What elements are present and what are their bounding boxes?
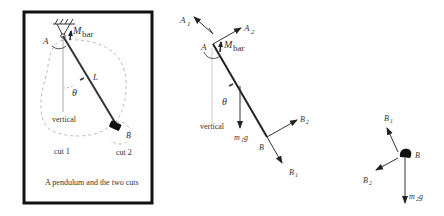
label-vertical: vertical <box>200 122 225 131</box>
moment-arrow <box>70 31 71 40</box>
label-B2: B <box>363 176 368 185</box>
label-B: B <box>415 151 420 160</box>
label-theta: θ <box>72 87 77 98</box>
force-B1-arrow <box>387 128 398 152</box>
svg-text:g: g <box>244 133 248 142</box>
label-B1: B <box>384 114 389 123</box>
panel-bar-free-body: A 1 A 2 A M bar θ vertical m 1 g B B 1 B… <box>179 15 309 178</box>
label-cut2: cut 2 <box>116 148 132 157</box>
label-A: A <box>42 36 49 46</box>
angle-tick <box>229 84 233 86</box>
label-vertical: vertical <box>52 115 77 124</box>
force-A1-arrow <box>194 17 213 34</box>
svg-text:2: 2 <box>369 180 372 186</box>
ceiling-support-icon <box>53 19 75 38</box>
svg-text:1: 1 <box>295 172 298 178</box>
panel-bob-free-body: B 1 B B 2 m 2 g <box>363 114 423 203</box>
force-B2-arrow <box>267 120 297 137</box>
label-m2g: m <box>409 192 415 201</box>
force-B2-arrow <box>376 158 398 170</box>
label-M: M <box>223 39 233 50</box>
label-L: L <box>92 72 98 82</box>
label-B: B <box>126 131 131 140</box>
svg-text:g: g <box>419 192 423 201</box>
label-B2: B <box>300 115 305 124</box>
pendulum-bar <box>63 36 116 124</box>
label-B: B <box>259 143 264 152</box>
label-cut1: cut 1 <box>54 147 70 156</box>
svg-text:bar: bar <box>233 43 245 53</box>
bob-icon <box>400 149 411 158</box>
moment-arrow <box>220 42 221 52</box>
panel-pendulum-cuts: A M bar L θ vertical B cut 1 cut 2 A pen… <box>24 12 152 203</box>
length-tick <box>80 78 84 80</box>
label-m1g: m <box>234 133 240 142</box>
label-M-sub: bar <box>82 29 94 39</box>
svg-text:1: 1 <box>390 118 393 124</box>
svg-text:2: 2 <box>306 119 309 125</box>
svg-text:2: 2 <box>251 28 255 36</box>
svg-text:1: 1 <box>187 20 191 28</box>
panel-caption: A pendulum and the two cuts <box>45 178 139 187</box>
label-A: A <box>200 42 207 52</box>
pendulum-bob <box>109 120 122 131</box>
force-B1-arrow <box>267 137 282 163</box>
label-A2: A <box>243 23 250 33</box>
angle-arc-A <box>52 46 66 49</box>
label-M: M <box>72 25 82 36</box>
label-B1: B <box>289 168 294 177</box>
label-theta: θ <box>222 96 227 107</box>
label-A1: A <box>179 15 186 25</box>
pendulum-free-body-diagram: A M bar L θ vertical B cut 1 cut 2 A pen… <box>0 0 444 216</box>
